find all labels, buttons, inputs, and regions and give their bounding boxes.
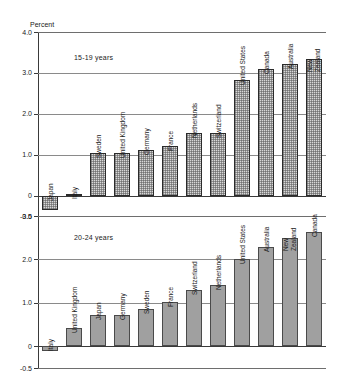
plot-area-20-24: 3.02.01.00-0.520-24 yearsItalyUnited Kin… <box>38 216 326 368</box>
y-axis-tick <box>34 196 38 197</box>
bar-category-label: France <box>167 287 174 307</box>
bar[interactable] <box>138 309 154 346</box>
bar-category-label: United Kingdom <box>71 287 78 333</box>
bar[interactable] <box>114 153 130 195</box>
bar[interactable] <box>258 69 274 196</box>
y-axis-tick <box>34 155 38 156</box>
frame-line-top <box>38 32 326 33</box>
bar-category-label: United States <box>239 46 246 85</box>
bar-category-label: Italy <box>47 339 54 351</box>
zero-baseline <box>38 346 326 347</box>
series-annotation: 20-24 years <box>74 234 113 241</box>
bar[interactable] <box>186 133 202 195</box>
bar-category-label: Netherlands <box>191 103 198 138</box>
bar[interactable] <box>282 64 298 196</box>
bar-category-label: Switzerland <box>191 261 198 295</box>
bar[interactable] <box>210 285 226 347</box>
y-axis-tick-label: 0 <box>2 192 32 199</box>
bar[interactable] <box>258 247 274 346</box>
frame-line-bottom <box>38 368 326 369</box>
bar-category-label: Japan <box>95 302 102 320</box>
y-axis-tick <box>34 346 38 347</box>
y-axis-tick <box>34 32 38 33</box>
chart-panel-15-19: Percent 4.03.02.01.00-0.515-19 yearsJapa… <box>0 0 337 222</box>
y-axis-tick <box>34 114 38 115</box>
bar[interactable] <box>90 153 106 195</box>
y-axis-tick <box>34 259 38 260</box>
bar-category-label: United States <box>239 225 246 264</box>
bar-category-label: Australia <box>263 227 270 252</box>
y-axis-tick-label: -0.5 <box>2 365 32 372</box>
figure-root: Percent 4.03.02.01.00-0.515-19 yearsJapa… <box>0 0 337 390</box>
y-axis-tick-label: 4.0 <box>2 29 32 36</box>
bar-category-label: Netherlands <box>215 255 222 290</box>
bar-category-label: Canada <box>263 51 270 74</box>
y-axis-tick-label: 3.0 <box>2 69 32 76</box>
bar-category-label: Japan <box>47 183 54 201</box>
y-axis-tick-label: 0 <box>2 343 32 350</box>
chart-panel-20-24: 3.02.01.00-0.520-24 yearsItalyUnited Kin… <box>0 222 337 390</box>
bar[interactable] <box>162 146 178 196</box>
y-axis-tick <box>34 368 38 369</box>
plot-area-15-19: 4.03.02.01.00-0.515-19 yearsJapanItalySw… <box>38 32 326 216</box>
bar-category-label: New Zealand <box>282 227 297 251</box>
bar[interactable] <box>282 238 298 347</box>
bar-category-label: Germany <box>143 128 150 155</box>
bar-category-label: New Zealand <box>306 49 321 73</box>
y-axis-tick-label: 2.0 <box>2 110 32 117</box>
bar[interactable] <box>234 80 250 195</box>
y-axis-line <box>38 216 39 368</box>
y-axis-tick <box>34 73 38 74</box>
bar[interactable] <box>306 59 322 195</box>
y-axis-tick-label: 1.0 <box>2 151 32 158</box>
series-annotation: 15-19 years <box>74 54 113 61</box>
y-axis-tick-label: 3.0 <box>2 213 32 220</box>
bar[interactable] <box>186 290 202 346</box>
zero-baseline <box>38 196 326 197</box>
bar[interactable] <box>210 133 226 195</box>
bar-category-label: Sweden <box>143 291 150 315</box>
y-axis-tick-label: 1.0 <box>2 299 32 306</box>
bar-category-label: Australia <box>287 44 294 69</box>
frame-line-top <box>38 216 326 217</box>
y-axis-title: Percent <box>30 21 54 28</box>
bar-category-label: United Kingdom <box>119 112 126 158</box>
y-axis-tick-label: 2.0 <box>2 256 32 263</box>
bar[interactable] <box>234 259 250 346</box>
bar[interactable] <box>162 302 178 346</box>
y-axis-tick <box>34 216 38 217</box>
bar-category-label: Italy <box>71 187 78 199</box>
y-axis-tick <box>34 303 38 304</box>
bar-category-label: France <box>167 130 174 150</box>
bar-category-label: Sweden <box>95 135 102 159</box>
bar-category-label: Switzerland <box>215 105 222 139</box>
y-axis-line <box>38 32 39 216</box>
bar-category-label: Canada <box>311 214 318 237</box>
bar-category-label: Germany <box>119 293 126 320</box>
bar[interactable] <box>138 150 154 196</box>
bar[interactable] <box>306 232 322 346</box>
